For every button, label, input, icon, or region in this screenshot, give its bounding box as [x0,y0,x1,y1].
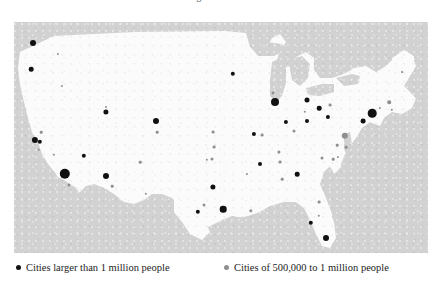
city-dot [111,185,114,188]
city-dot [281,178,284,181]
legend-label-medium: Cities of 500,000 to 1 million people [234,262,389,273]
legend-label-large: Cities larger than 1 million people [26,262,170,273]
city-dot [401,71,403,73]
city-dot [272,92,275,95]
city-dot [387,100,391,104]
city-dot [139,161,142,164]
legend-item-medium-cities: Cities of 500,000 to 1 million people [224,262,389,273]
city-dot [40,131,43,134]
city-dot [261,134,264,137]
city-dot [345,146,348,149]
city-dot [211,158,214,161]
legend-item-large-cities: Cities larger than 1 million people [16,262,170,273]
city-dot [323,235,329,241]
city-dot [295,172,300,177]
city-dot [29,67,34,72]
city-dot [305,119,309,123]
city-dot [293,130,296,133]
us-landmass [18,31,416,246]
city-dot [368,109,377,118]
city-dot [103,173,109,179]
city-dot [153,118,159,124]
city-dot [68,184,71,187]
figure-title-clipped: Distribution of Large Cities in the Unit… [0,0,438,3]
city-dot [321,157,324,160]
city-dot [329,104,332,107]
city-dot [305,98,310,103]
city-dot [156,131,159,134]
city-dot [317,106,322,111]
city-dot [105,106,107,108]
legend: Cities larger than 1 million people Citi… [0,259,438,283]
city-dot [332,158,335,161]
usa-outline-map [14,22,428,253]
city-dot [279,161,282,164]
city-dot [361,119,366,124]
city-dot [246,173,248,175]
city-dot [318,201,321,204]
city-dot [203,204,206,207]
city-dot [30,40,36,46]
legend-dot-large [16,265,21,270]
city-dot [220,206,227,213]
map-panel [14,22,428,253]
city-dot [258,162,262,166]
city-dot [213,146,216,149]
legend-dot-medium [224,265,229,270]
city-dot [336,144,339,147]
figure-root: Distribution of Large Cities in the Unit… [0,0,438,294]
city-dot [212,131,215,134]
city-dot [271,98,279,106]
